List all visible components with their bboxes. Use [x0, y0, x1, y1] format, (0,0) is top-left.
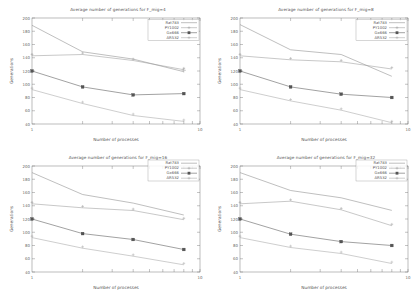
legend: Rat783 PY1002 Gx666 AR532	[356, 160, 407, 181]
y-tick: 120	[23, 217, 31, 222]
y-tick: 80	[233, 95, 238, 100]
legend-label: AR532	[167, 35, 180, 40]
y-tick: 60	[25, 256, 30, 261]
legend-label: AR532	[375, 35, 388, 40]
x-tick: 1	[31, 127, 34, 132]
plot-fmig4: Average number of generations for F_mig=…	[0, 0, 208, 148]
legend-label: AR532	[375, 175, 388, 180]
chart-title: Average number of generations for F_mig=…	[277, 155, 376, 160]
plot-area	[32, 166, 200, 272]
legend: Rat783 PY1002 Gx666 AR532	[356, 20, 407, 41]
chart-title: Average number of generations for F_mig=…	[70, 7, 166, 12]
chart-panel-fmig8: Average number of generations for F_mig=…	[208, 0, 416, 148]
chart-panel-fmig4: Average number of generations for F_mig=…	[0, 0, 208, 148]
x-axis: 1 10 Number of processes	[31, 166, 203, 290]
chart-panel-fmig32: Average number of generations for F_mig=…	[208, 148, 416, 296]
y-tick: 200	[23, 16, 31, 21]
y-axis-label: Generations	[9, 205, 14, 232]
x-tick: 10	[406, 275, 411, 280]
y-axis-label: Generations	[9, 57, 14, 84]
y-tick: 140	[23, 203, 31, 208]
y-tick: 80	[25, 243, 30, 248]
y-tick: 200	[231, 164, 239, 169]
chart-title: Average number of generations for F_mig=…	[69, 155, 168, 160]
y-tick: 40	[25, 122, 30, 127]
y-tick: 100	[23, 230, 31, 235]
y-tick: 120	[23, 69, 31, 74]
series-lines	[31, 173, 186, 265]
y-tick: 60	[233, 256, 238, 261]
legend: Rat783 PY1002 Gx666 AR532	[148, 20, 199, 41]
y-tick: 180	[23, 177, 31, 182]
y-tick: 140	[231, 55, 239, 60]
x-tick: 1	[239, 127, 242, 132]
y-tick: 180	[23, 29, 31, 34]
x-axis-label: Number of processes	[93, 137, 139, 142]
y-tick: 140	[23, 55, 31, 60]
x-axis-label: Number of processes	[301, 137, 347, 142]
y-tick: 160	[231, 42, 239, 47]
x-tick: 1	[31, 275, 34, 280]
x-axis: 1 10 Number of processes	[239, 166, 411, 290]
series-lines	[239, 173, 394, 264]
x-tick: 10	[198, 127, 203, 132]
y-axis-label: Generations	[217, 205, 222, 232]
y-tick: 140	[231, 203, 239, 208]
y-axis-label: Generations	[217, 57, 222, 84]
chart-panel-fmig16: Average number of generations for F_mig=…	[0, 148, 208, 296]
x-axis-label: Number of processes	[93, 285, 139, 290]
y-tick: 160	[23, 42, 31, 47]
legend-label: AR532	[167, 175, 180, 180]
y-tick: 40	[233, 270, 238, 275]
y-tick: 120	[231, 69, 239, 74]
chart-grid: Average number of generations for F_mig=…	[0, 0, 416, 297]
y-tick: 100	[23, 82, 31, 87]
chart-title: Average number of generations for F_mig=…	[278, 7, 374, 12]
y-tick: 40	[25, 270, 30, 275]
plot-fmig16: Average number of generations for F_mig=…	[0, 148, 208, 297]
y-tick: 160	[231, 190, 239, 195]
y-tick: 180	[231, 29, 239, 34]
y-tick: 60	[233, 108, 238, 113]
y-tick: 80	[233, 243, 238, 248]
y-tick: 60	[25, 108, 30, 113]
plot-area	[240, 166, 408, 272]
y-tick: 200	[23, 164, 31, 169]
plot-fmig32: Average number of generations for F_mig=…	[208, 148, 416, 297]
legend: Rat783 PY1002 Gx666 AR532	[148, 160, 199, 181]
x-axis-label: Number of processes	[301, 285, 347, 290]
y-tick: 80	[25, 95, 30, 100]
y-tick: 120	[231, 217, 239, 222]
x-tick: 10	[198, 275, 203, 280]
y-tick: 40	[233, 122, 238, 127]
y-tick: 100	[231, 82, 239, 87]
y-tick: 160	[23, 190, 31, 195]
plot-fmig8: Average number of generations for F_mig=…	[208, 0, 416, 148]
x-tick: 1	[239, 275, 242, 280]
y-tick: 200	[231, 16, 239, 21]
y-tick: 100	[231, 230, 239, 235]
y-tick: 180	[231, 177, 239, 182]
x-tick: 10	[406, 127, 411, 132]
